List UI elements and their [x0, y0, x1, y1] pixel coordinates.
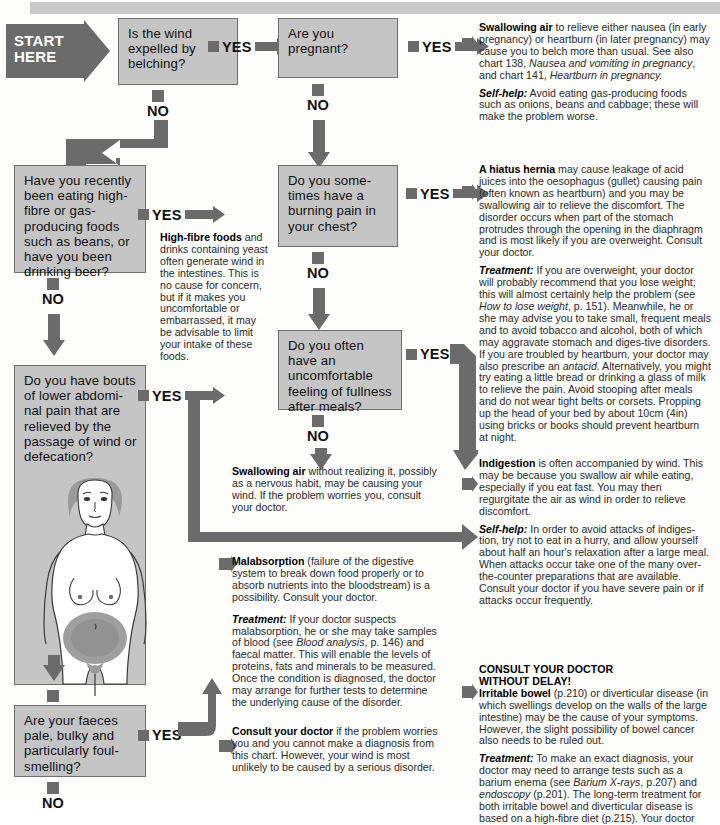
advice-malabsorption-lead: Malabsorption — [232, 555, 304, 567]
yes-square-icon — [408, 41, 419, 52]
no-square-icon — [47, 278, 59, 290]
start-here-label: STARTHERE — [14, 33, 88, 65]
no-branch-q7[interactable]: NO — [30, 782, 76, 811]
connector-q5-to-q7 — [43, 655, 65, 681]
no-square-icon — [47, 782, 59, 794]
advice-high-fibre-lead: High-fibre foods — [160, 231, 242, 243]
advice-indigestion-selfhelp-lead: Self-help: — [479, 523, 527, 535]
connector-q3-no-to-q5 — [43, 314, 65, 356]
advice-swallowing-air-pregnancy: Swallowing air to relieve either nausea … — [479, 22, 711, 123]
question-text-q2: Are you pregnant? — [288, 26, 348, 56]
advice-preg-ital1: Nausea and vomiting in pregnancy — [529, 57, 692, 69]
no-label-q3: NO — [30, 291, 76, 307]
connector-q7-yes-to-malabsorption — [178, 672, 224, 736]
urgent-heading-line2: WITHOUT DELAY! — [479, 675, 571, 687]
female-torso-illustration — [18, 466, 173, 696]
advice-urgent-treatment-body2: , p.207) and — [640, 776, 697, 788]
question-text-q1: Is the wind expelled by belching? — [128, 26, 196, 71]
advice-hernia-treatment-ital1: How to lose weight — [479, 300, 568, 312]
connector-q5-yes-to-urgent — [188, 394, 478, 562]
advice-urgent-treatment-lead: Treatment: — [479, 752, 534, 764]
yes-square-icon — [138, 209, 149, 220]
yes-square-icon — [138, 390, 149, 401]
arrow-into-pregnancy-advice-icon — [462, 36, 478, 52]
no-branch-q4[interactable]: NO — [295, 252, 341, 281]
question-text-q5: Do you have bouts of lower abdomi-nal pa… — [24, 373, 137, 464]
advice-preg-ital2: Heartburn in pregnancy. — [550, 69, 663, 81]
question-box-q4[interactable]: Do you some-times have a burning pain in… — [278, 165, 398, 247]
question-text-q7: Are your faeces pale, bulky and particul… — [24, 713, 119, 774]
yes-branch-q3[interactable]: YES — [138, 206, 225, 223]
question-text-q3: Have you recently been eating high-fibre… — [24, 173, 131, 279]
yes-label-q6: YES — [420, 346, 450, 362]
question-box-q7[interactable]: Are your faeces pale, bulky and particul… — [14, 705, 146, 777]
advice-malabsorption: Malabsorption (failure of the digestive … — [232, 556, 442, 709]
urgent-heading-line1: CONSULT YOUR DOCTOR — [479, 663, 613, 675]
no-branch-q3[interactable]: NO — [30, 278, 76, 307]
arrow-into-hiatus-hernia-advice-icon — [462, 184, 478, 200]
question-box-q3[interactable]: Have you recently been eating high-fibre… — [14, 165, 146, 273]
yes-square-icon — [208, 41, 219, 52]
yes-square-icon — [138, 730, 149, 741]
yes-branch-q1[interactable]: YES — [208, 38, 289, 55]
advice-hernia-lead: A hiatus hernia — [479, 163, 555, 175]
advice-preg-selfhelp-lead: Self-help: — [479, 87, 527, 99]
advice-hernia-treatment-lead: Treatment: — [479, 264, 534, 276]
advice-indigestion-lead: Indigestion — [479, 457, 536, 469]
advice-malabsorption-treatment-ital1: Blood analysis — [296, 636, 364, 648]
yes-label-q1: YES — [222, 39, 252, 55]
question-text-q4: Do you some-times have a burning pain in… — [288, 173, 376, 234]
no-branch-q2[interactable]: NO — [295, 84, 341, 113]
connector-q4-no-to-q6 — [308, 288, 330, 330]
no-label-q2: NO — [295, 97, 341, 113]
no-square-icon — [152, 90, 164, 102]
advice-preg-lead: Swallowing air — [479, 21, 553, 33]
advice-hernia-treatment-ital2: antacid — [563, 360, 597, 372]
yes-branch-q7[interactable]: YES — [138, 727, 182, 743]
advice-urgent-treatment-ital2: endoscopy — [479, 788, 530, 800]
advice-urgent-consult-doctor: CONSULT YOUR DOCTOR WITHOUT DELAY! Irrit… — [479, 664, 711, 825]
yes-label-q4: YES — [420, 186, 450, 202]
arrow-right-icon — [185, 206, 225, 223]
advice-indigestion-selfhelp-body: In order to avoid attacks of indiges-tio… — [479, 523, 709, 606]
connector-q2-no-to-q4 — [308, 120, 330, 168]
advice-hiatus-hernia: A hiatus hernia may cause leakage of aci… — [479, 164, 711, 444]
advice-hernia-treatment-body3: . Alternatively, you might try eating a … — [479, 360, 711, 443]
question-box-q2[interactable]: Are you pregnant? — [278, 18, 398, 78]
no-branch-q1[interactable]: NO — [135, 90, 181, 119]
no-square-icon — [312, 252, 324, 264]
advice-urgent-treatment-ital1: Barium X-rays — [573, 776, 640, 788]
no-label-q4: NO — [295, 265, 341, 281]
advice-high-fibre: High-fibre foods and drinks containing y… — [160, 232, 268, 363]
no-square-icon — [312, 84, 324, 96]
arrow-into-indigestion-advice-icon — [462, 476, 478, 492]
no-square-icon — [47, 690, 59, 702]
yes-label-q2: YES — [422, 39, 452, 55]
advice-indigestion: Indigestion is often accompanied by wind… — [479, 458, 711, 607]
top-banner — [30, 2, 720, 14]
advice-malabsorption-treatment-lead: Treatment: — [232, 613, 287, 625]
advice-consult-lead: Consult your doctor — [232, 725, 333, 737]
yes-branch-q6[interactable]: YES — [406, 346, 450, 362]
yes-label-q5: YES — [152, 388, 182, 404]
no-label-q7: NO — [30, 795, 76, 811]
yes-square-icon — [406, 188, 417, 199]
advice-high-fibre-body: and drinks containing yeast often genera… — [160, 231, 268, 362]
yes-label-q3: YES — [152, 207, 182, 223]
advice-urgent-lead: Irritable bowel — [479, 687, 551, 699]
start-here-arrow: STARTHERE — [6, 20, 110, 82]
arrow-into-urgent-advice-icon — [462, 684, 478, 700]
advice-consult-doctor: Consult your doctor if the problem worri… — [232, 726, 442, 774]
advice-hernia-body: may cause leakage of acid juices into th… — [479, 163, 703, 258]
no-label-q1: NO — [135, 103, 181, 119]
yes-square-icon — [406, 349, 417, 360]
